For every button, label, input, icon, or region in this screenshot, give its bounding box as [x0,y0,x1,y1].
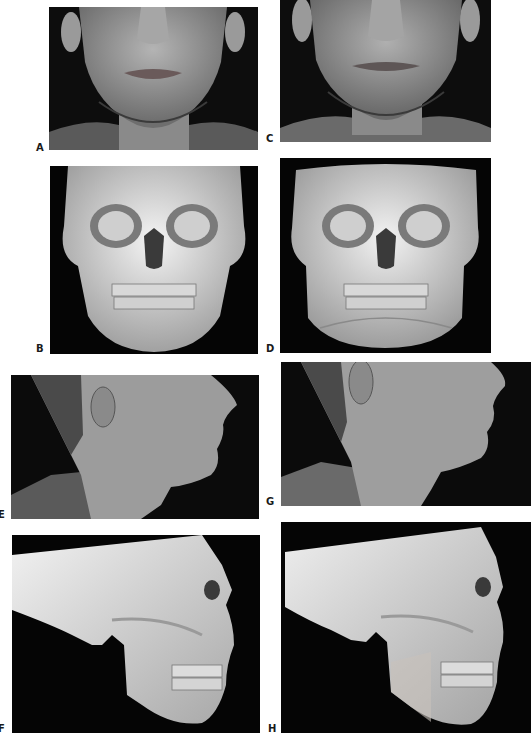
panel-label-f: F [0,724,5,734]
lateral-skull-image [12,535,260,733]
panel-label-g: G [266,497,274,507]
frontal-skull-image [50,166,258,354]
panel-h-lateral-skull-render [281,522,531,733]
frontal-skull-image [280,158,491,353]
lateral-face-image [281,362,531,506]
lateral-skull-image [281,522,531,733]
panel-label-a: A [36,143,44,153]
panel-g-lateral-photo [281,362,531,506]
frontal-face-image [49,7,258,150]
panel-f-lateral-skull-render [12,535,260,733]
panel-c-frontal-photo [280,0,491,142]
panel-label-c: C [266,134,273,144]
panel-label-d: D [266,344,274,354]
panel-label-e: E [0,510,5,520]
panel-e-lateral-photo [11,375,259,519]
lateral-face-image [11,375,259,519]
panel-a-frontal-photo [49,7,258,150]
frontal-face-image [280,0,491,142]
panel-d-frontal-skull-render [280,158,491,353]
panel-b-frontal-skull-render [50,166,258,354]
panel-label-b: B [36,344,44,354]
panel-label-h: H [268,724,276,734]
